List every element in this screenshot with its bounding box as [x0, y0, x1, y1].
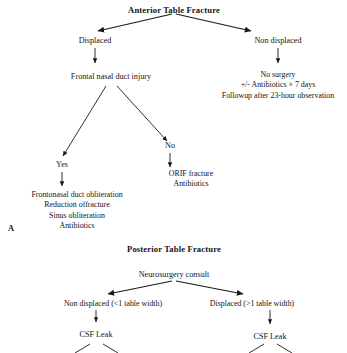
orif-line-2: Antibiotics	[169, 179, 213, 189]
connector-consult-to-displaced	[176, 281, 243, 294]
connector-consult-to-non-displaced	[108, 281, 172, 294]
node-csf-leak-left: CSF Leak	[80, 330, 113, 340]
connector-root-to-non-displaced	[176, 14, 251, 31]
connector-csf-right-stub-left	[249, 344, 264, 353]
node-neurosurgery-consult: Neurosurgery consult	[139, 270, 210, 280]
node-orif-treatment: ORIF fracture Antibiotics	[169, 169, 213, 190]
obliteration-line-3: Sinus obliteration	[31, 211, 122, 221]
node-frontal-nasal-duct-injury: Frontal nasal duct injury	[71, 72, 151, 82]
connector-csf-right-stub-right	[277, 344, 292, 353]
node-displaced: Displaced	[79, 36, 112, 46]
obliteration-line-2: Reduction offracture	[31, 200, 122, 210]
non-operative-line-1: No surgery	[222, 70, 334, 80]
node-yes: Yes	[56, 160, 68, 170]
non-operative-line-2: +/- Antibiotics × 7 days	[222, 80, 334, 90]
obliteration-line-1: Frontonasal duct obliteration	[31, 190, 122, 200]
node-posterior-displaced: Displaced (>1 table width)	[210, 299, 294, 308]
node-posterior-non-displaced: Non displaced (<1 table width)	[64, 299, 162, 308]
orif-line-1: ORIF fracture	[169, 169, 213, 179]
node-obliteration-treatment: Frontonasal duct obliteration Reduction …	[31, 190, 122, 232]
node-no: No	[165, 141, 175, 151]
node-csf-leak-right: CSF Leak	[254, 332, 287, 342]
panel-b-title: Posterior Table Fracture	[127, 244, 221, 254]
connector-csf-left-stub-right	[103, 344, 118, 353]
figure-frontal-sinus-fracture-algorithm: Anterior Table Fracture Displaced Non di…	[0, 0, 347, 353]
non-operative-line-3: Followup after 23-hour observation	[222, 91, 334, 101]
connector-root-to-displaced	[98, 14, 172, 31]
connector-fnd-to-no	[117, 86, 167, 141]
connector-csf-left-stub-left	[75, 344, 90, 353]
panel-label-a: A	[8, 224, 14, 233]
node-non-operative-management: No surgery +/- Antibiotics × 7 days Foll…	[222, 70, 334, 101]
node-non-displaced: Non displaced	[254, 36, 301, 46]
connector-fnd-to-yes	[63, 86, 106, 156]
panel-a-title: Anterior Table Fracture	[128, 5, 220, 15]
obliteration-line-4: Antibiotics	[31, 221, 122, 231]
